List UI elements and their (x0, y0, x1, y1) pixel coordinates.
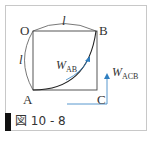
work-acb-main: W (112, 65, 122, 79)
work-acb-sub: ACB (122, 72, 138, 81)
arc-oa (25, 31, 34, 90)
point-b-label: B (99, 24, 108, 37)
work-ab-label: WAB (56, 59, 77, 74)
point-o-label: O (20, 24, 29, 37)
figure-caption: 図 10 - 8 (15, 115, 66, 127)
length-left-label: l (19, 53, 23, 66)
arrow-ab-head-icon (85, 56, 90, 62)
caption-bar (5, 113, 11, 131)
work-ab-main: W (56, 58, 66, 72)
point-a-label: A (23, 93, 32, 106)
work-acb-label: WACB (112, 66, 138, 81)
point-c-label: C (97, 93, 106, 106)
work-ab-sub: AB (66, 65, 77, 74)
arrow-acb-head-icon (104, 73, 110, 79)
length-top-label: l (62, 14, 66, 27)
